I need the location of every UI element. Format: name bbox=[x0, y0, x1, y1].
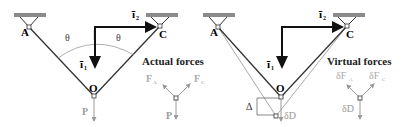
label-i1-sub: 1 bbox=[84, 65, 87, 71]
pin-o-icon bbox=[92, 94, 96, 98]
label-theta-right: θ bbox=[116, 32, 121, 43]
label-c: C bbox=[159, 28, 167, 40]
label-fa-sub: A bbox=[153, 80, 157, 85]
label-c: C bbox=[346, 28, 354, 40]
label-dfc-sub: C bbox=[382, 77, 386, 82]
truss-virtual-work-diagram: A C O θ θ ī 2 ī 1 P Actual forces F A F … bbox=[0, 0, 411, 127]
label-dfc: δF bbox=[369, 70, 380, 81]
label-dfa: δF bbox=[336, 70, 347, 81]
label-fbd-p: P bbox=[166, 110, 172, 121]
label-o: O bbox=[89, 82, 98, 94]
member-ao bbox=[29, 27, 94, 96]
label-fbd-dd: δD bbox=[342, 103, 354, 114]
delta-dimension bbox=[257, 98, 280, 115]
label-i2-sub: 2 bbox=[136, 15, 139, 21]
pin-o-displaced-icon bbox=[274, 114, 278, 118]
unit-vector-i1-arrow-icon bbox=[276, 56, 288, 69]
label-delta: Δ bbox=[246, 101, 253, 112]
label-i1-sub: 1 bbox=[271, 65, 274, 71]
unit-vector-i1-arrow-icon bbox=[89, 56, 101, 69]
actual-forces-fbd: F A F C P bbox=[146, 73, 205, 121]
label-dd: δD bbox=[284, 110, 296, 121]
label-a: A bbox=[210, 26, 218, 38]
virtual-forces-fbd: δF A δF C δD bbox=[336, 70, 386, 119]
label-i2-sub: 2 bbox=[323, 15, 326, 21]
left-panel: A C O θ θ ī 2 ī 1 P Actual forces F A F … bbox=[14, 8, 205, 121]
pin-o-icon bbox=[279, 95, 283, 99]
label-a: A bbox=[21, 26, 29, 38]
actual-forces-title: Actual forces bbox=[142, 55, 205, 67]
label-fa: F bbox=[146, 73, 152, 84]
label-theta-left: θ bbox=[65, 32, 70, 43]
label-p: P bbox=[82, 106, 88, 117]
label-fc: F bbox=[194, 73, 200, 84]
label-o: O bbox=[276, 82, 285, 94]
label-dfa-sub: A bbox=[349, 77, 353, 82]
virtual-forces-title: Virtual forces bbox=[327, 55, 392, 67]
member-ao bbox=[218, 27, 281, 97]
right-panel: A C O ī 2 ī 1 Δ δD Virtual forces δF A δ… bbox=[203, 8, 392, 121]
label-fc-sub: C bbox=[201, 80, 205, 85]
